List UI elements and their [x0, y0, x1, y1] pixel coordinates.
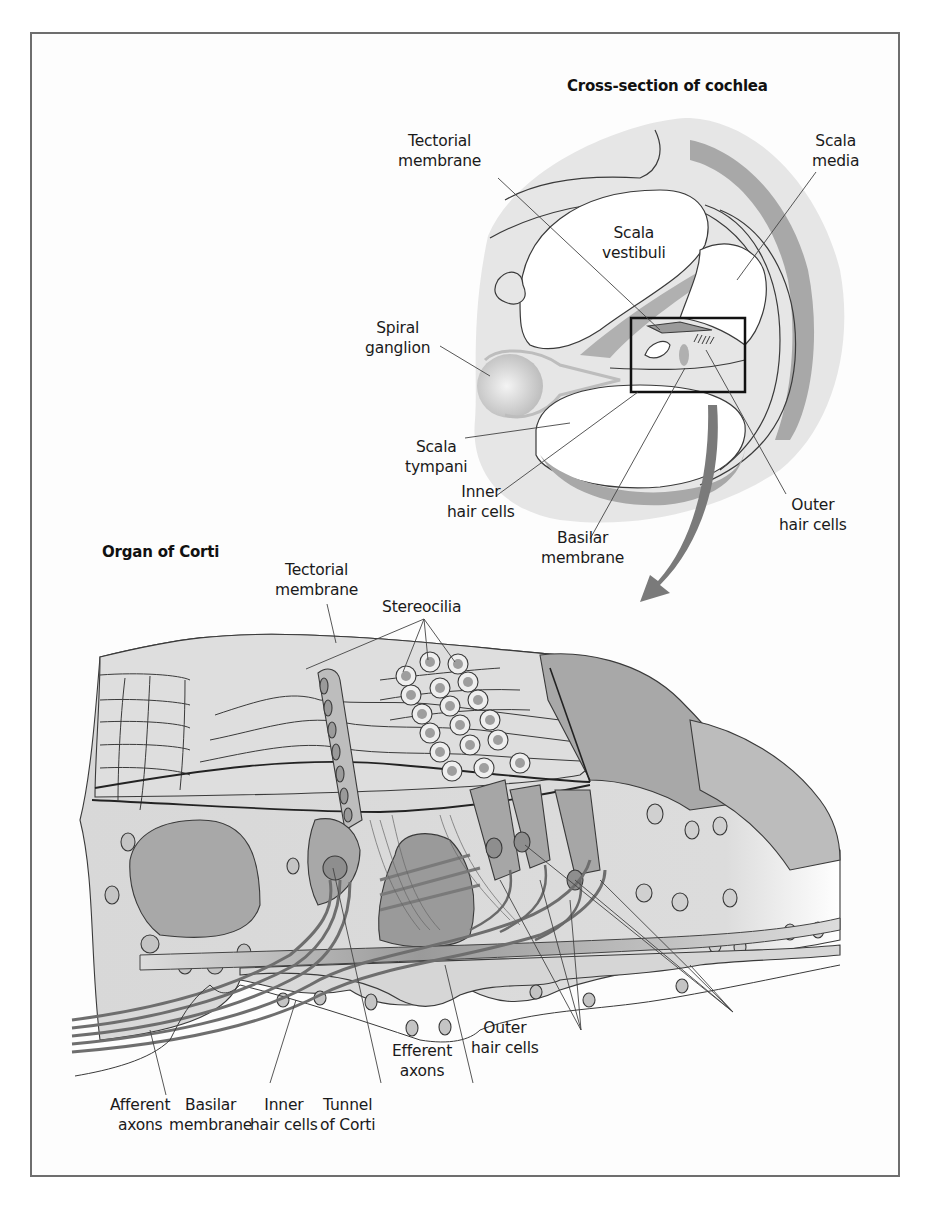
organ-of-corti: [72, 604, 840, 1095]
label-scala-media: Scala media: [812, 131, 859, 171]
label-efferent-axons: Efferent axons: [392, 1041, 452, 1081]
label-tectorial-membrane-top: Tectorial membrane: [398, 131, 481, 171]
label-stereocilia: Stereocilia: [382, 597, 461, 617]
label-inner-hair-cells-bottom: Inner hair cells: [250, 1095, 318, 1135]
label-outer-hair-cells-bottom: Outer hair cells: [471, 1018, 539, 1058]
label-inner-hair-cells-top: Inner hair cells: [447, 482, 515, 522]
cochlea-illustration: [0, 0, 926, 1212]
label-basilar-membrane-bottom: Basilar membrane: [169, 1095, 252, 1135]
label-basilar-membrane-top: Basilar membrane: [541, 528, 624, 568]
label-scala-tympani: Scala tympani: [405, 437, 467, 477]
label-tunnel-of-corti: Tunnel of Corti: [320, 1095, 375, 1135]
label-tectorial-membrane-bottom: Tectorial membrane: [275, 560, 358, 600]
label-spiral-ganglion: Spiral ganglion: [365, 318, 430, 358]
label-outer-hair-cells-top: Outer hair cells: [779, 495, 847, 535]
organ-of-corti-title: Organ of Corti: [102, 543, 219, 561]
cross-section-title: Cross-section of cochlea: [567, 77, 768, 95]
label-afferent-axons: Afferent axons: [110, 1095, 170, 1135]
label-scala-vestibuli: Scala vestibuli: [602, 223, 666, 263]
